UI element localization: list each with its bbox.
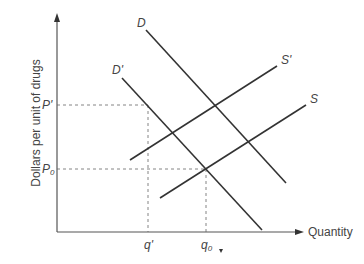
curve-label-d-prime: D' bbox=[112, 63, 124, 77]
supply-curve-s-prime bbox=[130, 66, 277, 160]
price-label-p-prime: P' bbox=[42, 98, 53, 112]
y-axis-arrow-icon bbox=[54, 13, 60, 22]
cursor-mark-icon bbox=[219, 249, 223, 253]
x-axis-label: Quantity bbox=[308, 225, 353, 239]
price-label-p0: P0 bbox=[42, 162, 55, 177]
quantity-label-q-prime: q' bbox=[144, 238, 154, 252]
curve-label-d: D bbox=[137, 16, 146, 30]
curve-label-s: S bbox=[310, 92, 318, 106]
curve-label-s-prime: S' bbox=[281, 53, 292, 67]
supply-curve-s bbox=[160, 105, 306, 198]
y-axis-label: Dollars per unit of drugs bbox=[29, 59, 43, 186]
demand-curve-d-prime bbox=[122, 78, 262, 230]
x-axis-arrow-icon bbox=[295, 229, 304, 235]
demand-curve-d bbox=[146, 30, 286, 183]
supply-demand-diagram: Dollars per unit of drugs Quantity D D' … bbox=[0, 0, 364, 264]
quantity-label-q0: q0 bbox=[201, 238, 213, 253]
